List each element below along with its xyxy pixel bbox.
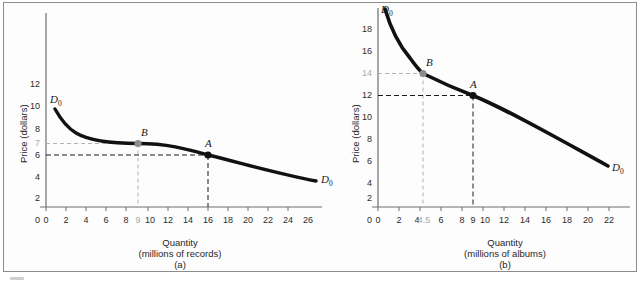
chart-a-xtick-12: 12 bbox=[158, 216, 178, 225]
chart-b-xtick-10: 10 bbox=[475, 216, 495, 225]
chart-a-demand-curve bbox=[55, 109, 316, 181]
chart-a-xtick-10: 10 bbox=[140, 216, 160, 225]
chart-a-point-a-marker bbox=[204, 151, 211, 158]
chart-a-caption: (a) bbox=[90, 259, 270, 270]
chart-a-xtick-4: 4 bbox=[76, 216, 96, 225]
chart-a-ytick-10: 10 bbox=[16, 102, 40, 111]
chart-b-xtick-6: 6 bbox=[431, 216, 451, 225]
chart-a-xtick-14: 14 bbox=[178, 216, 198, 225]
chart-a-xtick-24: 24 bbox=[278, 216, 298, 225]
chart-b-curve-label-top-text: D bbox=[381, 3, 389, 15]
chart-a-x-axis-title-line2: (millions of records) bbox=[90, 248, 270, 259]
chart-a-curve-label-left-text: D bbox=[50, 93, 58, 105]
chart-b-curve-label-top-sub: 0 bbox=[389, 9, 393, 18]
chart-b-ytick-12: 12 bbox=[348, 91, 372, 100]
chart-b-ytick-4: 4 bbox=[348, 179, 372, 188]
chart-b-ytick-6: 6 bbox=[348, 157, 372, 166]
chart-a-xtick-26: 26 bbox=[298, 216, 318, 225]
chart-a-xtick-2: 2 bbox=[56, 216, 76, 225]
chart-a-xtick-16: 16 bbox=[198, 216, 218, 225]
chart-b-xtick-22: 22 bbox=[599, 216, 619, 225]
chart-b-curve-label-right-text: D bbox=[612, 161, 620, 173]
chart-a-curve-label-left-sub: 0 bbox=[58, 99, 62, 108]
chart-a-ytick-4: 4 bbox=[16, 173, 40, 182]
chart-b-point-a-label: A bbox=[470, 78, 477, 90]
chart-b-curve-label-right-sub: 0 bbox=[620, 167, 624, 176]
chart-a-point-b-label: B bbox=[141, 126, 148, 138]
chart-a-ytick-2: 2 bbox=[16, 194, 40, 203]
chart-b-x-axis-title-line1: Quantity bbox=[415, 237, 595, 248]
chart-a-x-ticks bbox=[46, 207, 288, 211]
chart-a-xtick-0: 0 bbox=[36, 216, 56, 225]
chart-a-ytick-6: 6 bbox=[16, 151, 40, 160]
chart-panel-b: Price (dollars) 18 16 14 12 10 8 6 4 2 0… bbox=[330, 0, 643, 287]
chart-a-point-a-label: A bbox=[205, 137, 212, 149]
figure-container: Price (dollars) 12 10 8 7 6 4 2 0 0 2 4 … bbox=[0, 0, 643, 287]
chart-b-x-axis-title-line2: (millions of albums) bbox=[415, 248, 595, 259]
chart-a-xtick-6: 6 bbox=[96, 216, 116, 225]
chart-a-xtick-18: 18 bbox=[218, 216, 238, 225]
chart-a-ytick-7: 7 bbox=[16, 139, 40, 148]
chart-a-ytick-12: 12 bbox=[16, 80, 40, 89]
chart-a-x-axis-title-line1: Quantity bbox=[90, 237, 270, 248]
chart-b-ytick-18: 18 bbox=[348, 25, 372, 34]
chart-b-ytick-14: 14 bbox=[348, 69, 372, 78]
chart-b-caption: (b) bbox=[415, 259, 595, 270]
chart-a-curve-label-right-text: D bbox=[321, 173, 329, 185]
chart-b-xtick-18: 18 bbox=[557, 216, 577, 225]
chart-b-ytick-2: 2 bbox=[348, 194, 372, 203]
chart-a-point-b-marker bbox=[134, 140, 141, 147]
chart-b-point-b-marker bbox=[419, 70, 426, 77]
chart-b-ytick-16: 16 bbox=[348, 47, 372, 56]
chart-a-xtick-22: 22 bbox=[258, 216, 278, 225]
chart-a-ytick-8: 8 bbox=[16, 125, 40, 134]
chart-b-xtick-12: 12 bbox=[494, 216, 514, 225]
chart-a-xtick-20: 20 bbox=[238, 216, 258, 225]
chart-b-xtick-20: 20 bbox=[578, 216, 598, 225]
chart-b-point-b-label: B bbox=[426, 56, 433, 68]
chart-panel-a: Price (dollars) 12 10 8 7 6 4 2 0 0 2 4 … bbox=[0, 0, 330, 287]
chart-b-curve-label-right: D0 bbox=[612, 161, 624, 176]
chart-b-point-a-marker bbox=[469, 92, 476, 99]
chart-b-ytick-8: 8 bbox=[348, 135, 372, 144]
chart-b-xtick-0: 0 bbox=[368, 216, 388, 225]
chart-a-curve-label-left: D0 bbox=[50, 93, 62, 108]
chart-b-xtick-2: 2 bbox=[389, 216, 409, 225]
chart-b-demand-curve bbox=[385, 9, 608, 166]
chart-b-x-ticks bbox=[378, 207, 609, 211]
chart-b-xtick-14: 14 bbox=[515, 216, 535, 225]
chart-b-ytick-10: 10 bbox=[348, 113, 372, 122]
chart-b-curve-label-top: D0 bbox=[381, 3, 393, 18]
chart-b-xtick-16: 16 bbox=[536, 216, 556, 225]
